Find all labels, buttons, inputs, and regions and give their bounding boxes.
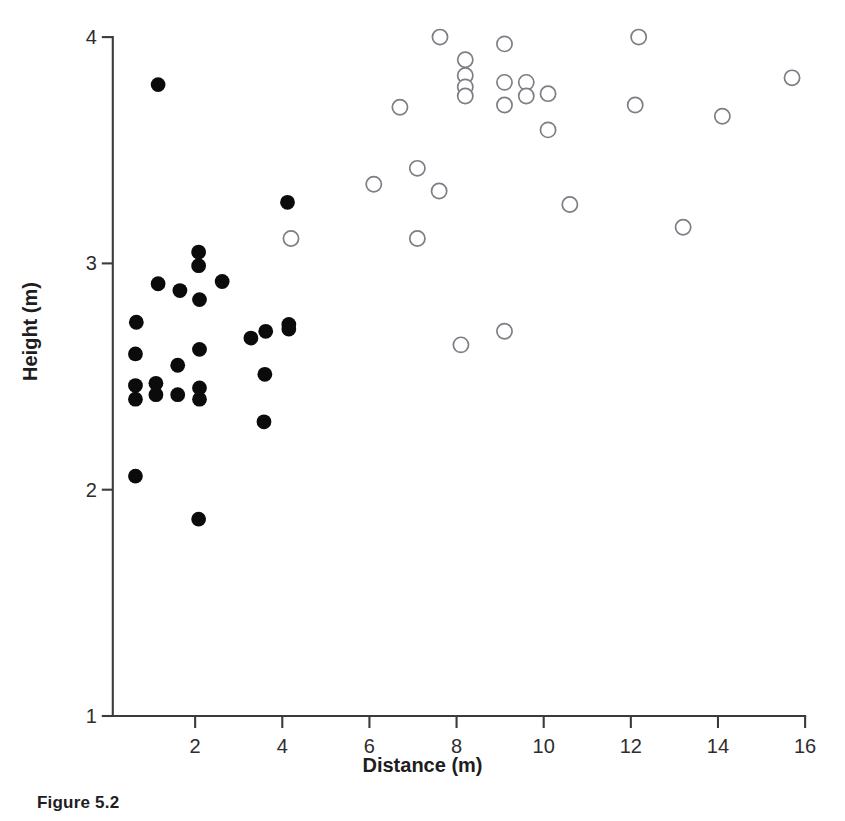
data-point-filled-15 — [170, 358, 185, 373]
data-point-open-1 — [631, 29, 646, 44]
data-point-open-16 — [540, 122, 555, 137]
data-point-filled-6 — [172, 283, 187, 298]
data-point-filled-0 — [151, 77, 166, 92]
data-point-filled-7 — [192, 292, 207, 307]
data-point-filled-25 — [128, 469, 143, 484]
x-tick-label-12: 12 — [620, 736, 642, 756]
data-point-filled-2 — [191, 245, 206, 260]
axis-lines — [113, 37, 805, 716]
data-point-filled-24 — [257, 414, 272, 429]
data-point-open-10 — [458, 88, 473, 103]
data-point-open-20 — [562, 197, 577, 212]
data-point-filled-8 — [129, 315, 144, 330]
figure-caption: Figure 5.2 — [37, 793, 119, 813]
data-point-open-0 — [432, 29, 447, 44]
data-points-group — [128, 29, 800, 526]
data-point-open-22 — [410, 231, 425, 246]
data-point-filled-1 — [280, 195, 295, 210]
x-tick-label-4: 4 — [277, 736, 288, 756]
data-point-filled-14 — [128, 347, 143, 362]
x-tick-label-6: 6 — [364, 736, 375, 756]
data-point-filled-26 — [191, 512, 206, 527]
data-point-open-17 — [410, 161, 425, 176]
data-point-filled-12 — [244, 331, 259, 346]
data-point-open-18 — [366, 177, 381, 192]
data-point-open-21 — [676, 220, 691, 235]
data-point-open-14 — [628, 97, 643, 112]
plot-svg — [0, 0, 845, 760]
data-point-open-9 — [519, 88, 534, 103]
x-tick-label-8: 8 — [451, 736, 462, 756]
data-point-open-6 — [497, 75, 512, 90]
data-point-open-19 — [432, 183, 447, 198]
data-point-filled-5 — [151, 276, 166, 291]
data-point-filled-13 — [192, 342, 207, 357]
y-tick-label-1: 1 — [75, 706, 97, 726]
y-tick-label-2: 2 — [75, 480, 97, 500]
data-point-open-23 — [283, 231, 298, 246]
data-point-filled-4 — [215, 274, 230, 289]
y-tick-label-4: 4 — [75, 27, 97, 47]
x-tick-label-16: 16 — [794, 736, 816, 756]
y-axis-title: Height (m) — [19, 232, 42, 432]
data-point-filled-3 — [191, 258, 206, 273]
data-point-open-24 — [497, 324, 512, 339]
x-tick-label-10: 10 — [533, 736, 555, 756]
data-point-filled-16 — [128, 378, 143, 393]
data-point-open-3 — [458, 52, 473, 67]
x-tick-label-14: 14 — [707, 736, 729, 756]
data-point-open-11 — [540, 86, 555, 101]
data-point-open-4 — [784, 70, 799, 85]
data-point-filled-21 — [128, 392, 143, 407]
data-point-open-13 — [497, 97, 512, 112]
data-point-filled-11 — [258, 324, 273, 339]
data-point-filled-10 — [281, 322, 296, 337]
data-point-open-12 — [392, 100, 407, 115]
data-point-open-15 — [715, 109, 730, 124]
figure-container: 1234246810121416 Height (m) Distance (m)… — [0, 0, 845, 821]
scatter-plot: 1234246810121416 Height (m) — [0, 0, 845, 760]
x-tick-label-2: 2 — [190, 736, 201, 756]
data-point-filled-20 — [170, 387, 185, 402]
y-tick-label-3: 3 — [75, 253, 97, 273]
data-point-filled-19 — [149, 387, 164, 402]
x-axis-title: Distance (m) — [0, 754, 845, 777]
data-point-open-25 — [453, 337, 468, 352]
data-point-filled-23 — [257, 367, 272, 382]
data-point-open-2 — [497, 36, 512, 51]
data-point-filled-22 — [192, 392, 207, 407]
axis-group — [102, 37, 805, 728]
